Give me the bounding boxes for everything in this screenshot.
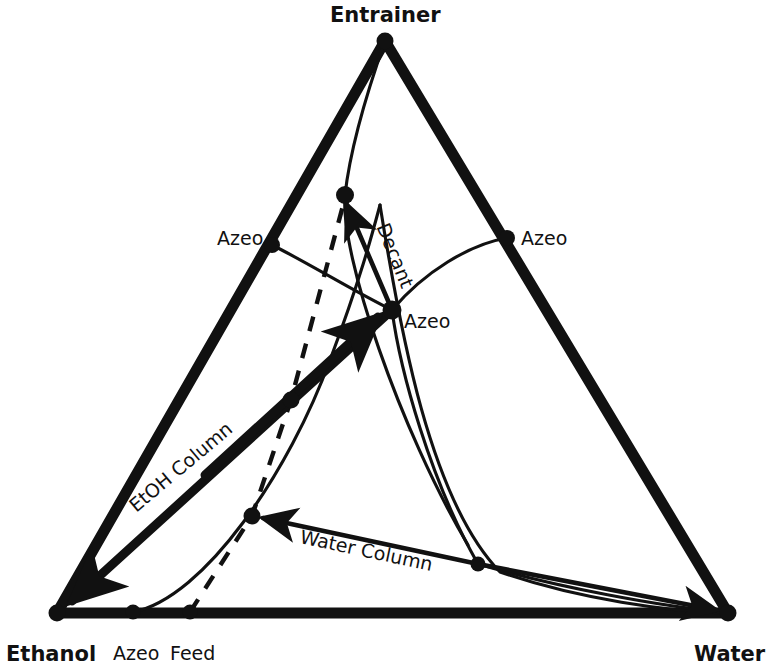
point-label-azeo-ternary: Azeo [404,310,450,332]
dot-decant-organic [336,186,354,204]
vertex-label-water: Water [694,642,766,666]
dot-decant-aqueous [471,557,486,572]
point-label-azeo-ethanol-entrainer: Azeo [217,227,263,249]
point-label-feed: Feed [170,642,215,664]
dot-entrainer-vertex [377,33,394,50]
boundary-left-azeo-to-ternary [272,245,392,310]
dot-etoh-column-stage [283,392,300,409]
point-label-azeo-entrainer-water: Azeo [521,227,567,249]
dot-azeo-ethanol-entrainer [264,237,280,253]
vertex-label-ethanol: Ethanol [6,642,96,666]
path-label-water-column: Water Column [298,525,435,575]
vertex-label-entrainer: Entrainer [330,3,441,27]
dot-azeo-ethanol-water [126,605,141,620]
dot-feed [183,605,198,620]
ternary-diagram-figure: Entrainer Ethanol Water Azeo Feed Azeo A… [0,0,772,669]
vertex-labels: Entrainer Ethanol Water [6,3,766,666]
point-labels: Azeo Feed Azeo Azeo Azeo [113,227,567,664]
dot-water-column-distillate [244,508,261,525]
point-label-azeo-ethanol-water: Azeo [113,642,159,664]
water-column-arrow-to-water [478,564,716,610]
dot-azeo-entrainer-water [499,230,515,246]
dot-water-vertex [720,605,737,622]
ternary-diagram-canvas: Entrainer Ethanol Water Azeo Feed Azeo A… [0,0,772,669]
dot-azeo-ternary [383,301,402,320]
dot-ethanol-vertex [49,605,66,622]
etoh-column-stream [72,310,392,601]
